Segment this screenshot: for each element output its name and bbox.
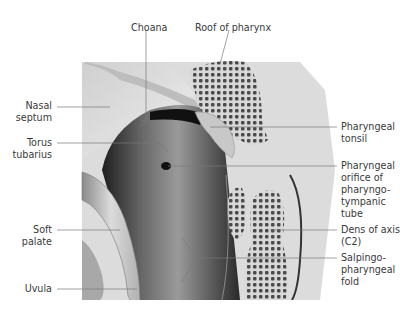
- label-uvula: Uvula: [25, 283, 52, 295]
- label-choana: Choana: [131, 22, 168, 34]
- label-pharyngeal-orifice: Pharyngeal orifice of pharyngo- tympanic…: [341, 160, 395, 220]
- label-nasal-septum: Nasal septum: [16, 100, 52, 124]
- label-roof-of-pharynx: Roof of pharynx: [195, 22, 271, 34]
- label-salpingopharyngeal-fold: Salpingo- pharyngeal fold: [341, 252, 395, 288]
- label-soft-palate: Soft palate: [22, 224, 52, 248]
- label-dens-of-axis: Dens of axis (C2): [341, 224, 400, 248]
- label-torus-tubarius: Torus tubarius: [13, 137, 53, 161]
- dens-bone: [245, 190, 287, 300]
- label-pharyngeal-tonsil: Pharyngeal tonsil: [341, 121, 395, 145]
